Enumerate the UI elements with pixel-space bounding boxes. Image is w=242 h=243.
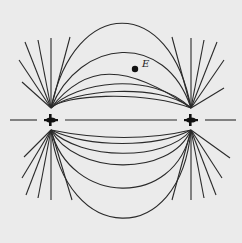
right-lower-fan [172,130,230,200]
left-charge-plus-icon [44,114,58,126]
lower-arcs [51,130,191,218]
field-lines-canvas: E [0,0,242,243]
point-e-dot [132,66,138,72]
upper-arcs [51,23,191,108]
field-diagram: E [0,0,242,243]
right-upper-fan [172,37,224,108]
point-e-label: E [141,58,150,69]
right-charge-plus-icon [184,114,198,126]
